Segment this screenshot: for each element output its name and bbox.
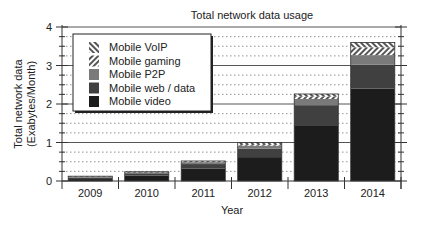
- bar-2011: [181, 161, 225, 181]
- y-axis-label: Total network data (Exabytes/Month): [12, 58, 37, 148]
- bar-segment: [351, 42, 395, 47]
- bar-2010: [125, 172, 169, 181]
- legend: Mobile VoIPMobile gamingMobile P2PMobile…: [73, 34, 213, 113]
- bar-segment: [351, 65, 395, 89]
- bar-segment: [294, 105, 338, 125]
- x-tick-label: 2010: [135, 187, 159, 199]
- x-tick-label: 2011: [191, 187, 215, 199]
- bar-segment: [238, 144, 282, 146]
- chart-title: Total network data usage: [191, 9, 313, 21]
- legend-swatch: [89, 69, 99, 80]
- y-tick-label: 1: [46, 137, 52, 149]
- bar-segment: [125, 176, 169, 181]
- x-tick-label: 2014: [361, 187, 385, 199]
- x-tick-label: 2012: [248, 187, 272, 199]
- legend-label: Mobile VoIP: [109, 41, 168, 53]
- bar-segment: [294, 99, 338, 105]
- bar-2013: [294, 94, 338, 181]
- bar-segment: [294, 125, 338, 181]
- bar-segment: [351, 47, 395, 55]
- bar-segment: [181, 169, 225, 181]
- legend-label: Mobile web / data: [109, 82, 196, 94]
- y-axis-label-line1: Total network data: [12, 58, 24, 148]
- legend-label: Mobile gaming: [109, 55, 181, 67]
- legend-swatch: [89, 56, 99, 67]
- legend-label: Mobile video: [109, 95, 171, 107]
- bar-segment: [181, 162, 225, 164]
- legend-swatch: [89, 83, 99, 94]
- bar-segment: [294, 96, 338, 99]
- stacked-bar-chart: Total network data usage 200920102011201…: [0, 0, 422, 229]
- y-tick-label: 4: [46, 21, 52, 33]
- legend-swatch: [89, 42, 99, 53]
- bar-segment: [238, 149, 282, 157]
- x-tick-label: 2013: [304, 187, 328, 199]
- bar-2012: [238, 143, 282, 182]
- bar-segment: [68, 178, 112, 180]
- y-tick-label: 3: [46, 60, 52, 72]
- bar-segment: [238, 146, 282, 149]
- legend-swatch: [89, 96, 99, 107]
- y-tick-label: 2: [46, 98, 52, 110]
- x-tick-label: 2009: [78, 187, 102, 199]
- bar-segment: [351, 55, 395, 65]
- y-tick-label: 0: [46, 175, 52, 187]
- legend-label: Mobile P2P: [109, 68, 165, 80]
- bar-segment: [238, 157, 282, 181]
- bar-segment: [351, 89, 395, 181]
- y-axis-label-line2: (Exabytes/Month): [25, 61, 37, 147]
- x-axis-label: Year: [221, 204, 244, 216]
- bar-2009: [68, 176, 112, 181]
- bar-2014: [351, 42, 395, 181]
- bar-segment: [125, 173, 169, 175]
- bar-segment: [181, 164, 225, 169]
